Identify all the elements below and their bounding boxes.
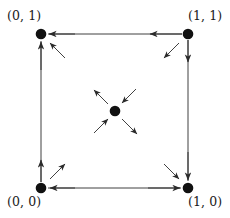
label-bottom-left: (0, 0) <box>7 196 41 209</box>
separatrix-corner-top-left-incoming <box>50 43 65 58</box>
label-bottom-right: (1, 0) <box>188 196 222 209</box>
label-top-left: (0, 1) <box>7 10 41 23</box>
separatrix-corner-top-right-outgoing <box>164 43 179 58</box>
separatrix-center-southeast-outgoing <box>122 119 137 134</box>
separatrix-center-southwest-incoming <box>94 119 108 133</box>
node-top-left <box>36 29 47 40</box>
label-top-right: (1, 1) <box>188 10 222 23</box>
phase-portrait-canvas <box>0 0 230 218</box>
phase-portrait-figure: (0, 1) (1, 1) (0, 0) (1, 0) <box>0 0 230 218</box>
separatrix-corner-bottom-left-outgoing <box>50 164 65 179</box>
node-bottom-left <box>36 183 47 194</box>
node-center-saddle <box>110 106 121 117</box>
node-top-right <box>183 29 194 40</box>
separatrix-center-northeast-incoming <box>122 89 136 103</box>
separatrix-center-northwest-outgoing <box>94 90 108 104</box>
separatrix-corner-bottom-right-incoming <box>164 164 179 179</box>
node-bottom-right <box>183 183 194 194</box>
